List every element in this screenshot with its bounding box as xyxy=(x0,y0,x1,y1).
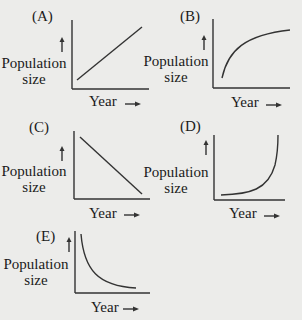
panel-e-xlabel: Year xyxy=(91,299,119,316)
panel-e-plot xyxy=(0,0,302,320)
right-arrow-icon xyxy=(123,306,139,312)
